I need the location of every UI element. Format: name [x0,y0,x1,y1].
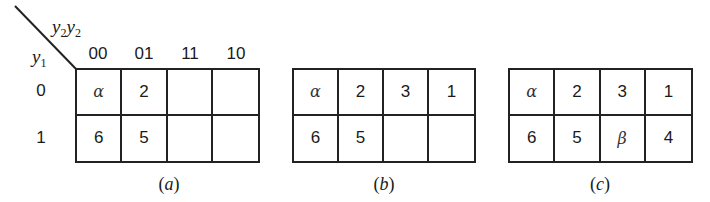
caption-letter: b [380,174,389,194]
cell-a-r1-c1: 5 [122,116,167,162]
column-header-11: 11 [167,44,213,64]
cell-c-r1-c3: 4 [646,116,691,162]
cell-a-r1-c3 [213,116,258,162]
cell-a-r0-c0: α [77,70,122,116]
cell-b-r0-c0: α [294,70,339,116]
cell-c-r1-c1: 5 [555,116,600,162]
row-var-subscript: 1 [40,56,46,70]
column-variable-label: y2y2 [52,17,81,39]
cell-c-r0-c1: 2 [555,70,600,116]
row-header-0: 0 [28,81,54,101]
kmap-panel-b: α 2 3 1 6 5 [292,68,476,163]
cell-c-r1-c2: β [601,116,646,162]
cell-a-r0-c1: 2 [122,70,167,116]
cell-b-r1-c2 [384,116,429,162]
cell-a-r1-c0: 6 [77,116,122,162]
caption-panel-c: (c) [570,174,630,194]
kmap-panel-c: α 2 3 1 6 5 β 4 [508,68,693,163]
cell-c-r0-c3: 1 [646,70,691,116]
column-var-2: y [66,16,74,37]
cell-a-r1-c2 [168,116,213,162]
cell-b-r1-c1: 5 [339,116,384,162]
cell-a-r0-c2 [168,70,213,116]
column-header-00: 00 [75,44,121,64]
column-var-2-subscript: 2 [75,26,81,40]
column-header-10: 10 [213,44,259,64]
cell-a-r0-c3 [213,70,258,116]
cell-b-r0-c3: 1 [429,70,474,116]
caption-letter: c [596,174,604,194]
cell-c-r0-c0: α [510,70,555,116]
cell-b-r1-c3 [429,116,474,162]
cell-b-r0-c2: 3 [384,70,429,116]
cell-c-r1-c0: 6 [510,116,555,162]
caption-panel-b: (b) [354,174,414,194]
kmap-panel-a: α 2 6 5 [75,68,260,163]
caption-close-paren: ) [389,174,395,194]
caption-panel-a: (a) [139,174,199,194]
caption-letter: a [165,174,174,194]
cell-b-r0-c1: 2 [339,70,384,116]
caption-close-paren: ) [604,174,610,194]
caption-close-paren: ) [174,174,180,194]
row-header-1: 1 [28,128,54,148]
cell-b-r1-c0: 6 [294,116,339,162]
row-variable-label: y1 [32,47,46,69]
cell-c-r0-c2: 3 [601,70,646,116]
column-header-01: 01 [121,44,167,64]
